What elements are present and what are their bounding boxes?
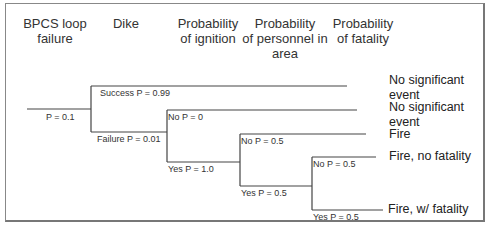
outcome-fire-no-fatality: Fire, no fatality — [389, 149, 471, 164]
outcome-line: No significant — [389, 100, 464, 115]
fatality-yes-label: Yes P = 0.5 — [313, 212, 359, 222]
dike-success-label: Success P = 0.99 — [100, 88, 170, 98]
outcome-fire-with-fatality: Fire, w/ fatality — [388, 202, 469, 217]
outcome-line: Fire — [389, 127, 411, 142]
initiating-probability-label: P = 0.1 — [46, 112, 75, 122]
outcome-fire: Fire — [389, 127, 411, 142]
outcome-line: No significant — [389, 73, 464, 88]
fatality-no-label: No P = 0.5 — [313, 159, 356, 169]
ignition-yes-label: Yes P = 1.0 — [168, 164, 214, 174]
personnel-yes-label: Yes P = 0.5 — [241, 188, 287, 198]
outcome-no-significant-event-2: No significant event — [389, 100, 464, 130]
outcome-line: Fire, no fatality — [389, 149, 471, 164]
dike-failure-label: Failure P = 0.01 — [97, 134, 161, 144]
outcome-line: Fire, w/ fatality — [388, 202, 469, 217]
personnel-no-label: No P = 0.5 — [241, 136, 284, 146]
outcome-no-significant-event-1: No significant event — [389, 73, 464, 103]
ignition-no-label: No P = 0 — [168, 112, 203, 122]
